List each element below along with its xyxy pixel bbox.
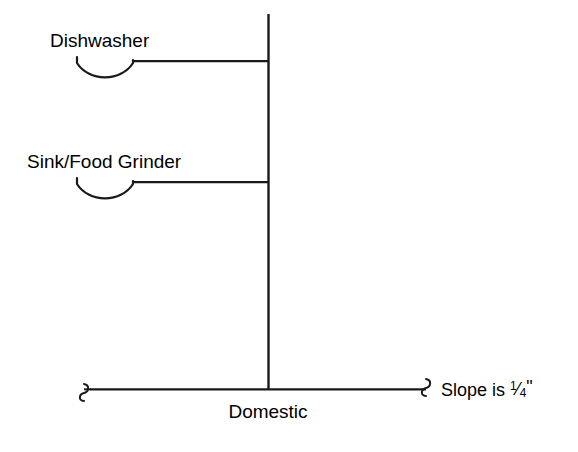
fraction-numerator: 1	[510, 379, 517, 393]
slope-prefix-text: Slope is	[441, 380, 510, 400]
sink-food-grinder-label: Sink/Food Grinder	[27, 152, 181, 171]
dishwasher-label: Dishwasher	[50, 31, 149, 50]
fraction-denominator: 4	[520, 386, 527, 400]
dishwasher-fixture-group	[77, 57, 268, 77]
dishwasher-trap-icon	[77, 57, 133, 77]
plumbing-riser-diagram: Dishwasher Sink/Food Grinder Domestic Sl…	[0, 0, 578, 452]
sink-food-grinder-trap-icon	[77, 178, 133, 198]
slope-annotation: Slope is 1⁄4"	[441, 378, 533, 399]
slope-fraction: 1⁄4	[510, 380, 526, 398]
inch-mark-symbol: "	[526, 377, 532, 397]
sink-food-grinder-fixture-group	[77, 178, 268, 198]
left-break-symbol-icon	[80, 384, 88, 401]
right-break-symbol-icon	[422, 379, 430, 396]
domestic-label: Domestic	[228, 402, 307, 421]
